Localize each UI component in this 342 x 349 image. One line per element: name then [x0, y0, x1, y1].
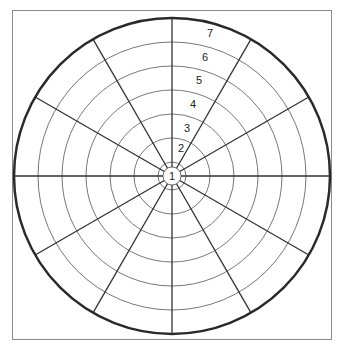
- spoke-6: [177, 184, 252, 313]
- spoke-3: [180, 97, 309, 172]
- spoke-5: [180, 181, 309, 256]
- ring-label-6: 6: [202, 51, 208, 63]
- ring-label-1: 1: [169, 170, 175, 182]
- spoke-2: [177, 39, 252, 168]
- ring-label-3: 3: [184, 122, 190, 134]
- ring-label-2: 2: [178, 142, 184, 154]
- ring-label-4: 4: [190, 98, 196, 110]
- spoke-11: [35, 97, 164, 172]
- spoke-9: [35, 181, 164, 256]
- ring-labels: 1 2 3 4 5 6 7: [169, 27, 213, 182]
- ring-label-5: 5: [196, 74, 202, 86]
- spoke-8: [93, 184, 168, 313]
- polar-grid: 1 2 3 4 5 6 7: [0, 0, 342, 349]
- spoke-12: [93, 39, 168, 168]
- ring-label-7: 7: [207, 27, 213, 39]
